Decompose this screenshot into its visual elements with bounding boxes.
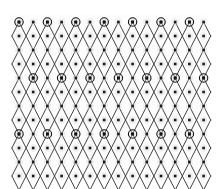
superlattice-site-core (188, 21, 191, 24)
lattice-site (188, 49, 191, 52)
lattice-site (146, 91, 149, 94)
lattice-site (131, 77, 134, 80)
lattice-site (32, 133, 35, 136)
lattice-site (75, 49, 78, 52)
superlattice-site-core (131, 21, 134, 24)
lattice-site (146, 49, 149, 52)
lattice-site (46, 77, 49, 80)
lattice-site (60, 147, 63, 150)
lattice-site (32, 105, 35, 108)
lattice-site (32, 35, 35, 38)
lattice-site (117, 49, 120, 52)
lattice-site (60, 21, 63, 24)
lattice-site (75, 105, 78, 108)
lattice-site (89, 21, 92, 24)
lattice-site (89, 133, 92, 136)
lattice-site (160, 161, 163, 164)
lattice-site (174, 105, 177, 108)
lattice-site (46, 175, 49, 178)
lattice-site (32, 21, 35, 24)
lattice-site (60, 63, 63, 66)
lattice-site (146, 105, 149, 108)
lattice-site (46, 91, 49, 94)
lattice-site (188, 161, 191, 164)
lattice-site (75, 63, 78, 66)
superlattice-site-core (160, 133, 163, 136)
superlattice-site-core (18, 21, 21, 24)
superlattice-site-core (74, 21, 77, 24)
lattice-site (117, 161, 120, 164)
lattice-site (117, 133, 120, 136)
lattice-site (89, 35, 92, 38)
lattice-site (18, 77, 21, 80)
lattice-site (188, 175, 191, 178)
lattice-site (188, 119, 191, 122)
lattice-site (103, 91, 106, 94)
lattice-site (160, 119, 163, 122)
lattice-site (89, 63, 92, 66)
lattice-site (103, 175, 106, 178)
lattice-site (202, 147, 205, 150)
lattice-site (146, 119, 149, 122)
lattice-site (174, 161, 177, 164)
superlattice-site-core (32, 77, 35, 80)
lattice-site (89, 147, 92, 150)
lattice-canvas (0, 0, 218, 189)
lattice-site (46, 119, 49, 122)
lattice-site (131, 161, 134, 164)
lattice-site (60, 133, 63, 136)
lattice-site (103, 63, 106, 66)
lattice-site (131, 147, 134, 150)
lattice-site (174, 91, 177, 94)
lattice-site (75, 35, 78, 38)
lattice-site (146, 147, 149, 150)
lattice-site (146, 21, 149, 24)
lattice-site (89, 49, 92, 52)
lattice-site (117, 35, 120, 38)
lattice-site (60, 105, 63, 108)
superlattice-site-core (117, 77, 120, 80)
lattice-site (18, 49, 21, 52)
lattice-site (160, 35, 163, 38)
lattice-site (18, 105, 21, 108)
lattice-site (60, 175, 63, 178)
lattice-site (174, 175, 177, 178)
lattice-site (174, 147, 177, 150)
lattice-site (18, 119, 21, 122)
lattice-site (18, 63, 21, 66)
lattice-site (89, 161, 92, 164)
lattice-figure (0, 0, 218, 189)
lattice-site (60, 35, 63, 38)
lattice-site (146, 35, 149, 38)
lattice-site (188, 63, 191, 66)
lattice-site (32, 161, 35, 164)
lattice-site (188, 35, 191, 38)
lattice-site (131, 105, 134, 108)
lattice-site (160, 63, 163, 66)
lattice-site (18, 91, 21, 94)
lattice-site (131, 63, 134, 66)
lattice-site (160, 105, 163, 108)
lattice-site (18, 175, 21, 178)
lattice-site (202, 35, 205, 38)
lattice-site (32, 63, 35, 66)
lattice-site (46, 63, 49, 66)
lattice-site (188, 147, 191, 150)
lattice-site (202, 161, 205, 164)
superlattice-site-core (174, 77, 177, 80)
lattice-site (160, 77, 163, 80)
lattice-site (60, 161, 63, 164)
superlattice-site-core (46, 21, 49, 24)
lattice-site (202, 49, 205, 52)
lattice-site (202, 21, 205, 24)
lattice-site (202, 63, 205, 66)
lattice-site (60, 119, 63, 122)
lattice-site (75, 119, 78, 122)
lattice-site (117, 63, 120, 66)
lattice-site (146, 63, 149, 66)
lattice-site (46, 105, 49, 108)
lattice-site (117, 105, 120, 108)
lattice-site (117, 119, 120, 122)
lattice-site (160, 91, 163, 94)
lattice-site (117, 175, 120, 178)
